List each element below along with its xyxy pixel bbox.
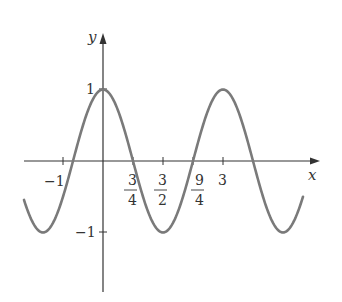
svg-text:9: 9	[195, 172, 204, 188]
x-axis-arrow-icon	[310, 158, 320, 165]
x-tick-label-neg1: −1	[44, 173, 65, 189]
svg-text:2: 2	[158, 192, 167, 208]
x-tick-label-9-4: 9 4	[191, 172, 204, 208]
y-axis-arrow-icon	[100, 33, 107, 44]
x-tick-label-3-4: 3 4	[124, 172, 137, 208]
cosine-graph: y x −1 3 4 3 2 9 4 3 1 −1	[0, 0, 342, 302]
y-axis-label: y	[87, 28, 97, 46]
x-tick-label-3: 3	[218, 172, 227, 188]
y-tick-label-neg1: −1	[75, 224, 96, 240]
x-tick-label-3-2: 3 2	[154, 172, 167, 208]
svg-text:4: 4	[128, 192, 137, 208]
svg-text:3: 3	[128, 172, 137, 188]
svg-text:3: 3	[158, 172, 167, 188]
x-axis-label: x	[308, 166, 317, 184]
svg-text:4: 4	[195, 192, 204, 208]
y-tick-label-1: 1	[86, 81, 95, 97]
